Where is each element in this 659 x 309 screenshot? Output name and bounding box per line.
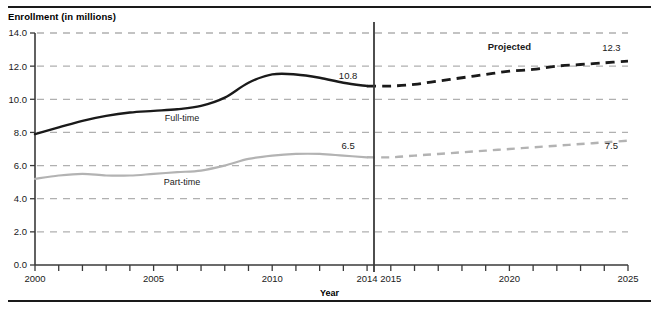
x-tick-label: 2025 xyxy=(617,273,638,284)
x-tick-label: 2014 xyxy=(357,273,378,284)
y-tick-label: 10.0 xyxy=(9,94,28,105)
series-line-projected-fulltime xyxy=(367,61,628,86)
value-annotation-7-5: 7.5 xyxy=(605,140,618,151)
y-tick-label: 8.0 xyxy=(14,127,27,138)
x-tick-label: 2010 xyxy=(262,273,283,284)
projected-label: Projected xyxy=(488,41,531,52)
series-line-actual-parttime xyxy=(35,154,367,179)
series-paths-group xyxy=(35,61,628,179)
line-chart-plot: 0.02.04.06.08.010.012.014.0 200020052010… xyxy=(0,0,659,309)
y-tick-label: 12.0 xyxy=(9,61,28,72)
y-tick-label: 0.0 xyxy=(14,259,27,270)
enrollment-projection-figure: Enrollment (in millions) Year 0.02.04.06… xyxy=(0,0,659,309)
series-inline-label-parttime: Part-time xyxy=(164,177,201,187)
value-annotation-10-8: 10.8 xyxy=(339,70,358,81)
y-tick-group: 0.02.04.06.08.010.012.014.0 xyxy=(9,27,36,270)
y-tick-label: 4.0 xyxy=(14,193,27,204)
x-tick-label: 2000 xyxy=(24,273,45,284)
value-annotation-12-3: 12.3 xyxy=(602,42,621,53)
x-tick-label: 2020 xyxy=(499,273,520,284)
y-tick-label: 14.0 xyxy=(9,27,28,38)
gridlines-group xyxy=(37,33,628,232)
x-tick-label: 2015 xyxy=(380,273,401,284)
value-annotation-6-5: 6.5 xyxy=(341,140,354,151)
series-inline-label-fulltime: Full-time xyxy=(165,113,200,123)
y-tick-label: 2.0 xyxy=(14,226,27,237)
x-tick-label: 2005 xyxy=(143,273,164,284)
y-tick-label: 6.0 xyxy=(14,160,27,171)
series-line-actual-fulltime xyxy=(35,74,367,134)
series-line-projected-parttime xyxy=(367,141,628,158)
x-tick-group: 2000200520102014201520202025 xyxy=(24,265,638,284)
